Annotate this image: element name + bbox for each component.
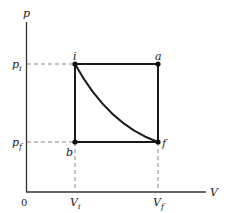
tick-p-i: pi <box>12 58 22 73</box>
point-b <box>72 139 77 144</box>
origin-label: 0 <box>21 197 27 208</box>
point-f <box>155 139 160 144</box>
tick-v-i: Vi <box>70 196 81 211</box>
tick-v-f: Vf <box>153 196 166 211</box>
label-f: f <box>161 137 168 150</box>
pv-diagram: i a f b p V 0 pi pf Vi Vf <box>0 0 231 213</box>
x-axis-label: V <box>210 186 219 199</box>
tick-p-f: pf <box>12 136 24 151</box>
label-a: a <box>155 50 162 63</box>
y-axis-label: p <box>23 7 30 20</box>
label-b: b <box>66 146 73 159</box>
path-i-f-curve <box>75 64 158 142</box>
label-i: i <box>73 50 77 63</box>
